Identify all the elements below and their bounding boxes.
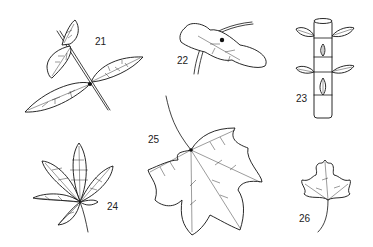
leaf-25-drawing [148,96,262,235]
leaf-24-drawing [33,143,113,232]
leaf-illustration-plate: 21 22 23 24 25 26 [0,0,373,247]
specimen-label-24: 24 [107,202,118,212]
specimen-label-26: 26 [299,214,310,224]
specimen-label-25: 25 [148,135,159,145]
specimen-label-22: 22 [177,56,188,66]
specimen-label-23: 23 [296,94,307,104]
specimen-label-21: 21 [95,37,106,47]
leaf-drawings [0,0,373,247]
leaf-21-drawing [25,20,143,112]
leaf-22-drawing [180,22,266,74]
